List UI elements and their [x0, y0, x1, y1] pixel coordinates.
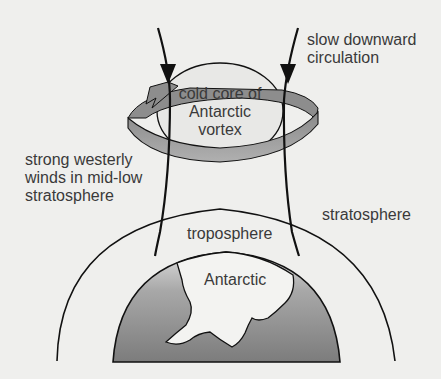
label-winds-line1: strong westerly — [25, 151, 142, 169]
label-troposphere: troposphere — [187, 225, 272, 243]
label-winds-line3: stratosphere — [25, 187, 142, 205]
label-winds: strong westerly winds in mid-low stratos… — [25, 151, 142, 205]
label-circulation-line2: circulation — [307, 49, 416, 67]
label-winds-line2: winds in mid-low — [25, 169, 142, 187]
label-stratosphere: stratosphere — [322, 206, 411, 224]
label-circulation-line1: slow downward — [307, 31, 416, 49]
label-antarctic: Antarctic — [204, 271, 266, 289]
label-circulation: slow downward circulation — [307, 31, 416, 67]
right-down-arrow-icon — [280, 64, 296, 84]
label-core-line3: vortex — [170, 121, 270, 139]
label-core-line2: Antarctic — [170, 103, 270, 121]
label-core: cold core of Antarctic vortex — [170, 85, 270, 139]
label-core-line1: cold core of — [170, 85, 270, 103]
